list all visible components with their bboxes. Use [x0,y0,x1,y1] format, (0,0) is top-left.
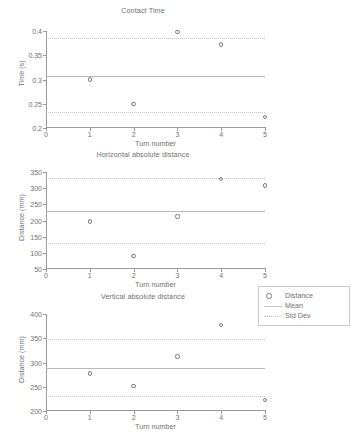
y-axis-tick [43,31,47,32]
y-axis-tick [43,204,47,205]
x-axis-tick-label: 4 [219,272,223,279]
data-point [88,371,92,375]
y-axis-tick-label: 200 [30,408,42,415]
std-dev-line [46,178,265,179]
x-axis-tick-label: 3 [175,272,179,279]
legend-item-distance[interactable]: Distance [263,291,345,301]
dotted-line-icon [263,311,285,321]
x-axis-tick-label: 1 [88,414,92,421]
y-axis-tick-label: 250 [30,383,42,390]
figure-canvas: Contact Time Time (s) 0.20.250.30.350.40… [0,0,354,446]
plot-area-vertical-absolute-distance: 200250300350400012345 [46,314,265,411]
y-axis-tick-label: 150 [30,233,42,240]
x-axis-line [46,268,265,269]
x-axis-tick-label: 4 [219,131,223,138]
y-axis-tick-label: 0.35 [28,52,42,59]
std-dev-line [46,38,265,39]
x-axis-line [46,127,265,128]
data-point [219,323,223,327]
data-point [175,354,179,358]
x-axis-tick-label: 2 [132,272,136,279]
plot-area-horizontal-absolute-distance: 50100150200250300350012345 [46,172,265,269]
y-axis-tick-label: 0.3 [32,76,42,83]
chart-title: Vertical absolute distance [0,292,286,301]
solid-line-icon [263,301,285,311]
x-axis-tick-label: 0 [44,272,48,279]
legend-item-std-dev[interactable]: Std Dev [263,311,345,321]
x-axis-tick-label: 0 [44,131,48,138]
circle-marker-icon [263,291,285,301]
y-axis-tick-label: 0.4 [32,28,42,35]
x-axis-tick-label: 5 [263,414,267,421]
y-axis-tick-label: 0.25 [28,100,42,107]
std-dev-line [46,396,265,397]
y-axis-label: Distance (mm) [17,325,26,395]
y-axis-tick-label: 350 [30,335,42,342]
y-axis-tick [43,188,47,189]
std-dev-line [46,112,265,113]
y-axis-tick-label: 100 [30,249,42,256]
y-axis-tick-label: 200 [30,217,42,224]
x-axis-tick-label: 4 [219,414,223,421]
data-point [131,254,135,258]
x-axis-label: Turn number [46,422,265,431]
y-axis-tick-label: 300 [30,185,42,192]
data-point [219,177,223,181]
x-axis-tick-label: 5 [263,131,267,138]
std-dev-line [46,243,265,244]
chart-title: Contact Time [0,6,286,15]
y-axis-tick [43,363,47,364]
mean-line [46,211,265,212]
x-axis-tick-label: 2 [132,414,136,421]
y-axis-tick [43,55,47,56]
data-point [131,102,135,106]
plot-area-contact-time: 0.20.250.30.350.4012345 [46,31,265,128]
data-point [175,214,179,218]
mean-line [46,76,265,77]
x-axis-line [46,410,265,411]
y-axis-tick-label: 250 [30,201,42,208]
legend-item-label: Mean [285,302,303,309]
data-point [263,183,267,187]
panel-contact-time: Contact Time Time (s) 0.20.250.30.350.40… [0,6,286,140]
data-point [175,30,179,34]
x-axis-tick-label: 3 [175,131,179,138]
y-axis-label: Time (s) [17,44,26,104]
data-point [88,77,92,81]
y-axis-label: Distance (mm) [17,183,26,253]
x-axis-tick-label: 1 [88,272,92,279]
legend[interactable]: Distance Mean Std Dev [258,286,350,326]
y-axis-tick [43,314,47,315]
x-axis-label: Turn number [46,280,265,289]
chart-title: Horizontal absolute distance [0,150,286,159]
y-axis-tick-label: 350 [30,169,42,176]
x-axis-tick-label: 0 [44,414,48,421]
y-axis-tick [43,172,47,173]
y-axis-tick [43,221,47,222]
legend-item-mean[interactable]: Mean [263,301,345,311]
y-axis-tick-label: 50 [34,266,42,273]
y-axis-tick [43,253,47,254]
data-point [219,42,223,46]
data-point [263,115,267,119]
std-dev-line [46,339,265,340]
y-axis-tick-label: 0.2 [32,125,42,132]
panel-horizontal-absolute-distance: Horizontal absolute distance Distance (m… [0,150,286,284]
data-point [88,219,92,223]
x-axis-label: Turn number [46,139,265,148]
panel-vertical-absolute-distance: Vertical absolute distance Distance (mm)… [0,292,286,432]
x-axis-tick-label: 3 [175,414,179,421]
y-axis-tick-label: 300 [30,359,42,366]
y-axis-tick [43,237,47,238]
legend-item-label: Std Dev [285,312,311,319]
data-point [131,384,135,388]
x-axis-tick-label: 2 [132,131,136,138]
y-axis-tick-label: 400 [30,311,42,318]
x-axis-tick-label: 5 [263,272,267,279]
x-axis-tick-label: 1 [88,131,92,138]
mean-line [46,368,265,369]
data-point [263,398,267,402]
y-axis-tick [43,80,47,81]
y-axis-tick [43,387,47,388]
legend-item-label: Distance [285,292,313,299]
